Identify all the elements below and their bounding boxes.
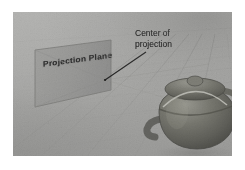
perspective-projection-figure: Projection Plane (13, 12, 232, 156)
figure-root: Projection Plane (0, 0, 245, 170)
scan-grain-texture (13, 12, 232, 156)
